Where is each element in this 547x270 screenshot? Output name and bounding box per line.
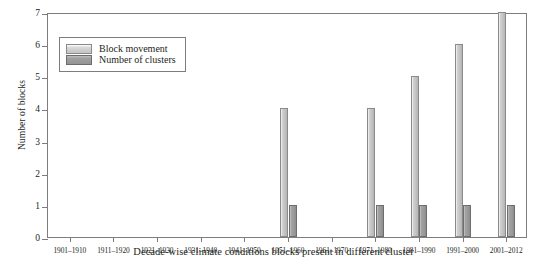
- x-axis-tick: [463, 237, 464, 242]
- y-axis-tick-label: 5: [22, 73, 40, 83]
- y-axis-tick-label: 4: [22, 105, 40, 115]
- y-axis-tick: [42, 239, 48, 240]
- y-axis-tick: [42, 46, 48, 47]
- bar-number-of-clusters: [507, 205, 515, 237]
- bar-number-of-clusters: [289, 205, 297, 237]
- y-axis-tick: [42, 110, 48, 111]
- legend-item-number-of-clusters: Number of clusters: [66, 55, 176, 65]
- bar-number-of-clusters: [463, 205, 471, 237]
- y-axis-tick-label: 7: [22, 9, 40, 19]
- bar-number-of-clusters: [419, 205, 427, 237]
- y-axis-tick-label: 2: [22, 170, 40, 180]
- x-axis-tick: [70, 237, 71, 242]
- y-axis-tick: [42, 207, 48, 208]
- bar-block-movement: [498, 12, 506, 237]
- x-axis-tick: [506, 237, 507, 242]
- bar-chart-figure: Number of blocks 012345671901–19101911–1…: [0, 0, 547, 270]
- y-axis-tick-label: 1: [22, 202, 40, 212]
- x-axis-title: Decade-wise climate conditions blocks pr…: [0, 246, 547, 257]
- y-axis-tick: [42, 175, 48, 176]
- legend-label-block-movement: Block movement: [99, 44, 168, 54]
- x-axis-tick: [113, 237, 114, 242]
- chart-legend: Block movement Number of clusters: [59, 37, 186, 72]
- x-axis-tick: [244, 237, 245, 242]
- x-axis-tick: [332, 237, 333, 242]
- bar-block-movement: [411, 76, 419, 237]
- x-axis-tick: [157, 237, 158, 242]
- bar-number-of-clusters: [376, 205, 384, 237]
- legend-swatch-number-of-clusters: [66, 55, 92, 65]
- x-axis-tick: [375, 237, 376, 242]
- y-axis-tick-label: 6: [22, 41, 40, 51]
- y-axis-tick: [42, 143, 48, 144]
- y-axis-tick-label: 3: [22, 138, 40, 148]
- bar-block-movement: [455, 44, 463, 237]
- x-axis-tick: [201, 237, 202, 242]
- legend-label-number-of-clusters: Number of clusters: [99, 55, 176, 65]
- y-axis-tick: [42, 78, 48, 79]
- y-axis-tick: [42, 14, 48, 15]
- legend-item-block-movement: Block movement: [66, 44, 176, 54]
- x-axis-tick: [288, 237, 289, 242]
- bar-block-movement: [367, 108, 375, 237]
- bar-block-movement: [280, 108, 288, 237]
- y-axis-tick-label: 0: [22, 234, 40, 244]
- legend-swatch-block-movement: [66, 44, 92, 54]
- x-axis-tick: [419, 237, 420, 242]
